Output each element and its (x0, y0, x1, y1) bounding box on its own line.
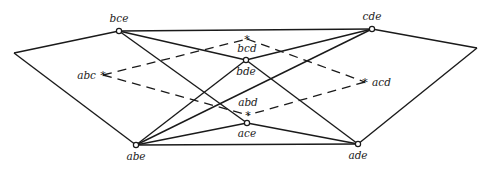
vertex-label-bcd: bcd (237, 42, 257, 54)
graph-diagram: **** bcecdebdeaceabeadeabcbcdacdabd (0, 0, 493, 169)
edge-outer-right-ade (358, 48, 477, 144)
vertex-label-abc: abc (77, 69, 96, 81)
vertex-label-ace: ace (238, 127, 256, 139)
dashed-edges (103, 39, 365, 115)
dashed-edge-acd-abd (248, 82, 365, 115)
edge-cde-bde (246, 29, 372, 60)
edge-cde-outer-right (372, 29, 477, 48)
vertex-label-ade: ade (348, 149, 367, 161)
vertex-abc-star-icon: * (100, 69, 106, 82)
vertex-label-bde: bde (236, 65, 256, 77)
vertex-label-abe: abe (126, 150, 145, 162)
edge-bde-ade (246, 60, 358, 144)
dashed-edge-abc-abd (103, 75, 248, 115)
edge-outer-left-abe (14, 53, 136, 145)
edge-abe-ace (136, 123, 247, 145)
vertex-label-cde: cde (363, 10, 382, 22)
edge-abe-ade (136, 144, 358, 145)
edge-bce-cde (119, 29, 372, 31)
vertex-bce-circle-icon (116, 28, 121, 33)
vertex-ade-circle-icon (355, 141, 360, 146)
vertex-abe-circle-icon (133, 142, 138, 147)
edge-bde-abe (136, 60, 246, 145)
vertex-label-abd: abd (238, 96, 258, 108)
vertex-acd-star-icon: * (362, 76, 368, 89)
edge-ace-ade (247, 123, 358, 144)
vertex-cde-circle-icon (369, 26, 374, 31)
edge-outer-left-bce (14, 31, 119, 53)
vertex-label-acd: acd (372, 76, 391, 88)
vertex-label-bce: bce (110, 12, 129, 24)
vertex-abd-star-icon: * (245, 109, 251, 122)
vertex-bde-circle-icon (243, 57, 248, 62)
